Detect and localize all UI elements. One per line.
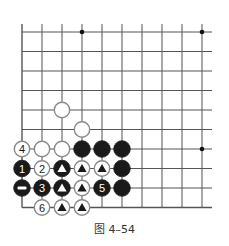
white-stone: 2 [34, 161, 49, 176]
star-point-icon [80, 30, 85, 35]
go-board-diagram: 412356 [0, 0, 229, 220]
star-point-icon [200, 30, 205, 35]
white-stone [74, 180, 89, 195]
white-stone: 6 [34, 200, 49, 215]
black-stone [54, 160, 71, 177]
white-stone [94, 161, 109, 176]
figure-caption: 图 4–54 [0, 220, 229, 236]
move-number-label: 5 [99, 182, 105, 194]
board-grid [22, 24, 212, 208]
move-number-label: 1 [19, 163, 25, 175]
move-number-label: 6 [39, 202, 45, 214]
white-stone [74, 161, 89, 176]
move-number-label: 3 [39, 182, 45, 194]
black-stone: 5 [94, 180, 111, 197]
black-stone: 3 [34, 180, 51, 197]
white-stone [54, 102, 69, 117]
stones-layer: 412356 [14, 102, 131, 215]
black-stone [114, 180, 131, 197]
black-stone [114, 141, 131, 158]
white-stone [74, 200, 89, 215]
black-stone [54, 180, 71, 197]
white-stone [34, 141, 49, 156]
black-stone [14, 180, 31, 197]
minus-marker-icon [18, 187, 27, 190]
black-stone [94, 141, 111, 158]
move-number-label: 4 [19, 143, 25, 155]
move-number-label: 2 [39, 163, 45, 175]
star-point-icon [200, 147, 205, 152]
white-stone [54, 200, 69, 215]
black-stone [74, 141, 91, 158]
white-stone: 4 [14, 141, 29, 156]
black-stone [114, 160, 131, 177]
black-stone: 1 [14, 160, 31, 177]
white-stone [74, 122, 89, 137]
white-stone [54, 141, 69, 156]
